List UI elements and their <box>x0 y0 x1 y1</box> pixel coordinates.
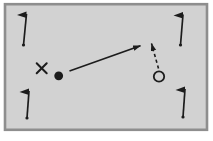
flag-base-dot <box>179 43 182 46</box>
drill-field-figure <box>0 0 213 141</box>
diagram-layer <box>5 4 207 130</box>
flag-base-dot <box>25 116 28 119</box>
diagram-svg <box>0 0 213 141</box>
playing-field <box>5 4 207 130</box>
ball-dot <box>54 71 63 80</box>
flag-base-dot <box>22 43 25 46</box>
flag-base-dot <box>181 115 184 118</box>
